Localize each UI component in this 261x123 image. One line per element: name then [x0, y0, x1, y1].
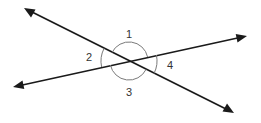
arrowhead-lower-left-icon: [13, 81, 24, 90]
angle-label-4: 4: [167, 60, 173, 71]
arrowhead-upper-right-icon: [236, 34, 247, 43]
angle-arc-4: [154, 55, 157, 74]
intersecting-lines-diagram: [0, 0, 261, 123]
angle-arc-3: [110, 65, 146, 80]
angle-label-1: 1: [126, 29, 132, 40]
angle-arc-2: [101, 49, 104, 68]
angle-label-3: 3: [126, 87, 132, 98]
angle-label-2: 2: [86, 52, 92, 63]
